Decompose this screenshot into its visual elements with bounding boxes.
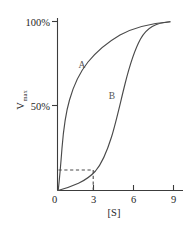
chart-container: 100% 50% 0 3 6 9 [S] Vmax A B: [0, 0, 189, 227]
y-axis-title-main: V: [15, 102, 26, 110]
curve-a-path: [58, 22, 170, 191]
x-tick-label-0: 0: [52, 194, 57, 205]
y-tick-label-100: 100%: [26, 17, 51, 28]
curve-label-b: B: [109, 91, 115, 101]
curve-label-a: A: [79, 60, 86, 70]
x-tick-label-9: 9: [171, 194, 176, 205]
enzyme-kinetics-chart: 100% 50% 0 3 6 9 [S] Vmax A B: [0, 0, 189, 227]
curve-b-path: [58, 22, 170, 191]
x-tick-label-6: 6: [131, 194, 136, 205]
y-axis-title: Vmax: [15, 90, 28, 110]
y-axis-title-sub: max: [21, 90, 28, 102]
y-tick-label-50: 50%: [31, 101, 51, 112]
y-axis-title-text: Vmax: [15, 90, 28, 110]
x-tick-label-3: 3: [91, 194, 96, 205]
x-axis-title: [S]: [108, 207, 121, 218]
